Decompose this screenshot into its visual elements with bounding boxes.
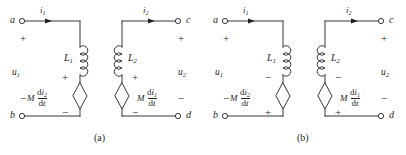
current-label-i2: i2 — [143, 6, 149, 16]
source-right-bottom-sign-b: + — [335, 107, 341, 118]
voltage-label-u2: u2 — [178, 68, 186, 78]
terminal-node-a — [19, 18, 24, 23]
inductor-L2-coil — [114, 46, 122, 76]
source-left-derivative-b: di2 dt — [239, 88, 251, 109]
current-i2-subscript-b: 2 — [349, 10, 352, 16]
source-right-bottom-sign: − — [132, 107, 138, 118]
current-arrow-i1-b — [248, 18, 255, 23]
polarity-u2-minus: − — [178, 93, 184, 104]
source-left-expression: M di2 dt — [27, 88, 48, 109]
current-i1-subscript: 1 — [43, 10, 46, 16]
inductor-L2-subscript-b: 2 — [337, 57, 340, 64]
source-left-dt-t-b: t — [246, 98, 249, 108]
inductor-label-L2-b: L2 — [331, 53, 340, 65]
current-label-i1-b: i1 — [243, 6, 249, 16]
source-left-denominator: dt — [38, 98, 47, 108]
terminal-node-b — [19, 113, 24, 118]
source-left-i-subscript-b: 2 — [247, 92, 250, 98]
source-left-expression-b: M di2 dt — [230, 88, 251, 109]
source-left-numerator: di2 — [36, 88, 48, 98]
polarity-u2-plus: + — [178, 33, 184, 44]
dependent-source-left-diamond — [73, 83, 87, 109]
terminal-label-d-b: d — [389, 110, 394, 120]
source-right-expression-b: M di1 dt — [340, 88, 361, 109]
inductor-label-L2: L2 — [128, 53, 137, 65]
source-right-denominator-b: dt — [351, 98, 360, 108]
dependent-source-right-diamond — [115, 83, 129, 109]
source-right-top-sign-b: − — [335, 72, 341, 83]
terminal-node-c — [175, 18, 180, 23]
current-arrow-i2 — [148, 18, 155, 23]
source-left-coefficient: M — [27, 94, 35, 103]
voltage-u2-subscript-b: 2 — [386, 71, 389, 78]
current-arrow-i1 — [45, 18, 52, 23]
source-left-top-sign: + — [62, 72, 68, 83]
terminal-node-c-b — [378, 18, 383, 23]
inductor-L1-coil-b — [283, 46, 291, 76]
terminal-node-d — [175, 113, 180, 118]
inductor-L1-subscript-b: 1 — [273, 57, 276, 64]
polarity-u1-plus: + — [20, 33, 26, 44]
dependent-source-right-diamond-b — [318, 83, 332, 109]
source-right-dt-t: t — [153, 98, 156, 108]
inductor-label-L1: L1 — [64, 53, 73, 65]
dependent-source-left-diamond-b — [276, 83, 290, 109]
panel-a-caption: (a) — [94, 133, 105, 143]
polarity-u1-minus-b: − — [223, 93, 229, 104]
source-left-dt-t: t — [43, 98, 46, 108]
current-label-i2-b: i2 — [346, 6, 352, 16]
voltage-u2-subscript: 2 — [183, 71, 186, 78]
terminal-label-d: d — [186, 110, 191, 120]
source-right-coefficient: M — [137, 94, 145, 103]
source-left-bottom-sign-b: + — [265, 107, 271, 118]
panel-b-caption: (b) — [297, 133, 309, 143]
terminal-label-b-b: b — [213, 110, 218, 120]
terminal-node-d-b — [378, 113, 383, 118]
polarity-u2-minus-b: − — [381, 93, 387, 104]
source-left-denominator-b: dt — [241, 98, 250, 108]
current-arrow-i2-b — [351, 18, 358, 23]
polarity-u1-plus-b: + — [223, 33, 229, 44]
terminal-node-a-b — [222, 18, 227, 23]
source-right-derivative-b: di1 dt — [349, 88, 361, 109]
voltage-u1-subscript-b: 1 — [220, 71, 223, 78]
panel-a: a b c d i1 i2 u1 u2 + − + − L1 L2 + − — [0, 0, 203, 155]
voltage-label-u2-b: u2 — [381, 68, 389, 78]
inductor-L2-coil-b — [317, 46, 325, 76]
source-left-top-sign-b: − — [265, 72, 271, 83]
terminal-label-c-b: c — [389, 15, 393, 25]
panel-b: a b c d i1 i2 u1 u2 + − + − L1 L2 − + − … — [203, 0, 406, 155]
current-label-i1: i1 — [40, 6, 46, 16]
terminal-label-c: c — [186, 15, 190, 25]
source-right-numerator-b: di1 — [349, 88, 361, 98]
figure-coupled-inductor-equivalent-circuits: a b c d i1 i2 u1 u2 + − + − L1 L2 + − — [0, 0, 406, 155]
voltage-label-u1-b: u1 — [215, 68, 223, 78]
current-i1-subscript-b: 1 — [246, 10, 249, 16]
source-left-i-subscript: 2 — [44, 92, 47, 98]
source-right-i-subscript-b: 1 — [357, 92, 360, 98]
source-right-expression: M di1 dt — [137, 88, 158, 109]
inductor-L1-coil — [80, 46, 88, 76]
source-right-i-subscript: 1 — [154, 92, 157, 98]
polarity-u1-minus: − — [20, 93, 26, 104]
inductor-L2-subscript: 2 — [134, 57, 137, 64]
source-right-derivative: di1 dt — [146, 88, 158, 109]
source-left-bottom-sign: − — [62, 107, 68, 118]
voltage-u1-subscript: 1 — [17, 71, 20, 78]
inductor-L1-subscript: 1 — [70, 57, 73, 64]
terminal-label-b: b — [10, 110, 15, 120]
current-i2-subscript: 2 — [146, 10, 149, 16]
source-right-dt-t-b: t — [356, 98, 359, 108]
source-left-numerator-b: di2 — [239, 88, 251, 98]
source-left-coefficient-b: M — [230, 94, 238, 103]
terminal-label-a: a — [10, 15, 15, 25]
polarity-u2-plus-b: + — [381, 33, 387, 44]
source-right-denominator: dt — [148, 98, 157, 108]
source-right-top-sign: + — [132, 72, 138, 83]
inductor-label-L1-b: L1 — [267, 53, 276, 65]
voltage-label-u1: u1 — [12, 68, 20, 78]
source-right-coefficient-b: M — [340, 94, 348, 103]
source-right-numerator: di1 — [146, 88, 158, 98]
source-left-derivative: di2 dt — [36, 88, 48, 109]
terminal-node-b-b — [222, 113, 227, 118]
